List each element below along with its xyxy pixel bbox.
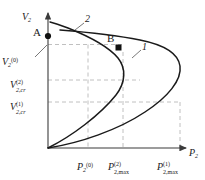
x-tick-2-sup: (1) bbox=[163, 161, 170, 167]
point-b-marker bbox=[116, 45, 122, 51]
figure-container: V2 P2 A B 2 1 V2(0) V(2)2,cr V(1)2,cr P2… bbox=[0, 0, 205, 180]
y-axis-label-sub: 2 bbox=[28, 17, 31, 23]
x-axis-label-sub: 2 bbox=[195, 153, 198, 159]
grid-vertical bbox=[88, 45, 180, 149]
x-tick-label-p2-0: P2(0) bbox=[77, 157, 93, 173]
y-tick-label-v2-0: V2(0) bbox=[2, 52, 18, 68]
curve-1-label: 1 bbox=[142, 42, 147, 52]
point-b-label: B bbox=[107, 33, 114, 44]
point-a-label: A bbox=[33, 27, 41, 38]
point-a-marker bbox=[45, 33, 51, 39]
y-tick-2-sub: 2,cr bbox=[16, 109, 26, 115]
curve-1-path bbox=[48, 30, 180, 148]
plot-canvas bbox=[0, 0, 205, 180]
y-tick-label-v2cr-2: V(2)2,cr bbox=[10, 75, 16, 91]
x-tick-1-sub: 2,max bbox=[114, 169, 129, 175]
leader-curve-2 bbox=[75, 23, 84, 30]
leader-curve-1 bbox=[132, 50, 141, 58]
y-tick-label-v2cr-1: V(1)2,cr bbox=[10, 97, 16, 113]
x-tick-2-sub: 2,max bbox=[163, 169, 178, 175]
x-tick-label-p2max-1: P(1)2,max bbox=[157, 157, 163, 173]
y-tick-1-sub: 2,cr bbox=[16, 87, 26, 93]
x-tick-0-sup: (0) bbox=[86, 162, 93, 168]
leader-v2-0 bbox=[35, 45, 47, 57]
y-axis-label: V2 bbox=[22, 7, 31, 23]
y-tick-0-sup: (0) bbox=[11, 57, 18, 63]
curve-2-label: 2 bbox=[85, 14, 90, 24]
y-tick-1-sup: (2) bbox=[16, 79, 23, 85]
y-tick-2-sup: (1) bbox=[16, 101, 23, 107]
x-tick-1-sup: (2) bbox=[114, 161, 121, 167]
x-axis-label: P2 bbox=[189, 143, 198, 159]
x-tick-label-p2max-2: P(2)2,max bbox=[108, 157, 114, 173]
